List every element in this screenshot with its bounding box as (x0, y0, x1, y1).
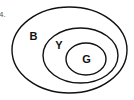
set-g-label: G (82, 53, 91, 65)
set-b-label: B (30, 30, 38, 42)
question-number: 4. (0, 10, 6, 19)
nested-venn-diagram: 4. B Y G (0, 0, 134, 100)
set-y-label: Y (55, 39, 63, 51)
